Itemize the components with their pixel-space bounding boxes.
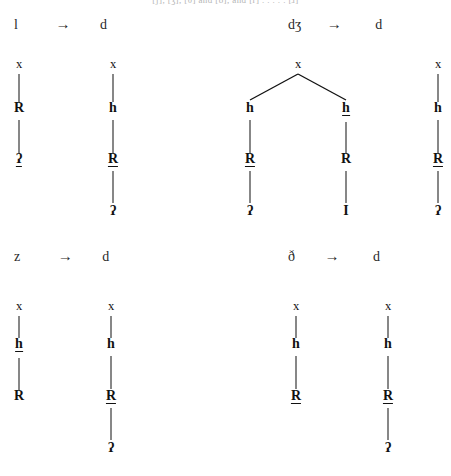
tree-node: ʔ	[108, 441, 114, 454]
association-line	[19, 358, 20, 390]
rule-dz-d-source: dʒ	[288, 17, 301, 33]
association-line	[438, 120, 439, 153]
tree-node: x	[16, 300, 22, 313]
association-line	[388, 356, 389, 389]
tree-node: R	[106, 389, 116, 404]
tree-node: x	[16, 58, 22, 71]
tree-node: R	[14, 101, 24, 114]
rule-z-d: z → d	[14, 248, 109, 265]
rule-l-d-source: l	[14, 17, 18, 33]
association-line	[388, 408, 389, 440]
tree-node-root: x	[295, 58, 301, 71]
association-line	[19, 316, 20, 338]
rule-l-d: l → d	[14, 16, 107, 33]
association-line	[296, 316, 297, 338]
association-line	[250, 120, 251, 153]
arrow-icon: →	[327, 16, 342, 32]
tree-node: ʔ	[16, 152, 22, 167]
association-line	[111, 408, 112, 440]
association-line	[438, 74, 439, 102]
rule-z-d-source: z	[14, 249, 20, 265]
tree-node: h	[15, 337, 23, 352]
tree-node: ʔ	[110, 204, 116, 217]
tree-node: I	[343, 204, 348, 217]
tree-node: h	[107, 337, 115, 350]
tree-node: ʔ	[435, 204, 441, 217]
association-line	[113, 120, 114, 153]
association-line	[113, 74, 114, 102]
arrow-icon: →	[58, 248, 73, 264]
branch-lines	[240, 72, 360, 102]
association-line	[111, 356, 112, 389]
association-line	[19, 74, 20, 102]
association-line	[346, 122, 347, 153]
association-line	[250, 171, 251, 203]
association-line	[113, 171, 114, 203]
tree-node: h	[342, 101, 350, 116]
tree-node: R	[245, 152, 255, 167]
tree-node: R	[291, 389, 301, 404]
tree-node: R	[14, 389, 24, 402]
tree-node: h	[384, 337, 392, 350]
association-line	[438, 171, 439, 203]
rule-th-d-target: d	[373, 249, 380, 265]
tree-node: R	[108, 152, 118, 167]
arrow-icon: →	[55, 16, 70, 32]
tree-node: x	[293, 300, 299, 313]
branch-line-left	[250, 74, 298, 100]
cropped-text-fragment-label: [ʃ], [ʒ], [θ] and [ð], and [ɾ] . . . . .…	[152, 0, 298, 5]
tree-node: x	[385, 300, 391, 313]
association-line	[388, 316, 389, 338]
tree-node: h	[246, 101, 254, 114]
tree-node: h	[292, 337, 300, 350]
association-line	[346, 171, 347, 203]
association-line	[296, 356, 297, 389]
rule-th-d: ð → d	[288, 248, 380, 265]
tree-node: R	[383, 389, 393, 404]
branch-line-right	[298, 74, 346, 100]
tree-node: x	[435, 58, 441, 71]
rule-dz-d-target: d	[375, 17, 382, 33]
tree-node: R	[341, 152, 351, 165]
tree-node: ʔ	[385, 441, 391, 454]
association-line	[19, 120, 20, 153]
rule-l-d-target: d	[100, 17, 107, 33]
tree-node: h	[109, 101, 117, 114]
rule-th-d-source: ð	[288, 249, 295, 265]
cropped-text-fragment: [ʃ], [ʒ], [θ] and [ð], and [ɾ] . . . . .…	[0, 0, 451, 9]
tree-node: h	[434, 101, 442, 114]
tree-node: R	[433, 152, 443, 167]
tree-node: x	[108, 300, 114, 313]
tree-node: x	[110, 58, 116, 71]
rule-z-d-target: d	[102, 249, 109, 265]
association-line	[111, 316, 112, 338]
tree-node: ʔ	[247, 204, 253, 217]
arrow-icon: →	[325, 248, 340, 264]
rule-dz-d: dʒ → d	[288, 16, 382, 33]
